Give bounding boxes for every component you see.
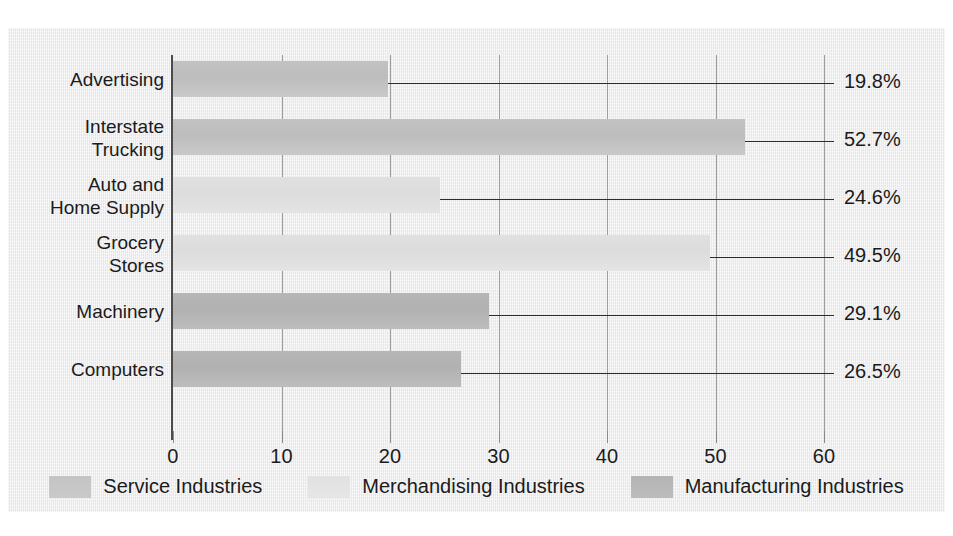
category-label: Computers: [0, 358, 164, 381]
category-label: GroceryStores: [0, 231, 164, 277]
value-label: 29.1%: [844, 302, 944, 325]
category-label-line1: Auto and: [0, 173, 164, 196]
gridline: [716, 55, 717, 440]
x-axis-tick-label: 40: [577, 445, 637, 468]
x-axis-tick: [824, 431, 825, 443]
x-axis-tick-label: 30: [469, 445, 529, 468]
x-axis-tick-label: 50: [686, 445, 746, 468]
category-label-line2: Trucking: [0, 138, 164, 161]
leader-line: [489, 315, 834, 316]
legend-item[interactable]: Service Industries: [49, 475, 262, 498]
x-axis-tick: [716, 431, 717, 443]
x-axis-tick-label: 0: [143, 445, 203, 468]
legend-label: Service Industries: [103, 475, 262, 498]
plot-area: 0102030405060 AdvertisingInterstateTruck…: [8, 28, 945, 512]
category-label-line1: Advertising: [0, 68, 164, 91]
leader-line: [461, 373, 834, 374]
value-label: 26.5%: [844, 360, 944, 383]
leader-line: [440, 199, 834, 200]
category-label: Advertising: [0, 68, 164, 91]
category-label-line1: Machinery: [0, 300, 164, 323]
bar[interactable]: [173, 177, 440, 213]
category-label-line1: Computers: [0, 358, 164, 381]
gridline: [824, 55, 825, 440]
chart-legend: Service IndustriesMerchandising Industri…: [8, 475, 945, 498]
legend-label: Manufacturing Industries: [685, 475, 904, 498]
legend-item[interactable]: Merchandising Industries: [308, 475, 584, 498]
value-label: 49.5%: [844, 244, 944, 267]
category-label: InterstateTrucking: [0, 115, 164, 161]
category-label-line1: Grocery: [0, 231, 164, 254]
chart-root: 0102030405060 AdvertisingInterstateTruck…: [0, 0, 953, 536]
category-label: Auto andHome Supply: [0, 173, 164, 219]
legend-swatch-icon: [308, 476, 350, 498]
legend-swatch-icon: [49, 476, 91, 498]
x-axis-tick: [607, 431, 608, 443]
category-label-line2: Home Supply: [0, 196, 164, 219]
value-label: 24.6%: [844, 186, 944, 209]
leader-line: [710, 257, 834, 258]
leader-line: [745, 141, 834, 142]
x-axis-tick: [499, 431, 500, 443]
legend-swatch-icon: [631, 476, 673, 498]
legend-item[interactable]: Manufacturing Industries: [631, 475, 904, 498]
legend-label: Merchandising Industries: [362, 475, 584, 498]
bar[interactable]: [173, 351, 461, 387]
x-axis-tick-label: 20: [360, 445, 420, 468]
value-label: 52.7%: [844, 128, 944, 151]
bar[interactable]: [173, 61, 388, 97]
x-axis-tick: [173, 431, 174, 443]
bar[interactable]: [173, 293, 489, 329]
bar[interactable]: [173, 235, 710, 271]
category-label-line1: Interstate: [0, 115, 164, 138]
category-label-line2: Stores: [0, 254, 164, 277]
x-axis-tick: [282, 431, 283, 443]
leader-line: [388, 83, 834, 84]
chart-panel: 0102030405060 AdvertisingInterstateTruck…: [8, 28, 945, 512]
category-label: Machinery: [0, 300, 164, 323]
value-label: 19.8%: [844, 70, 944, 93]
x-axis-tick-label: 10: [252, 445, 312, 468]
bar[interactable]: [173, 119, 745, 155]
x-axis-tick-label: 60: [794, 445, 854, 468]
x-axis-tick: [390, 431, 391, 443]
